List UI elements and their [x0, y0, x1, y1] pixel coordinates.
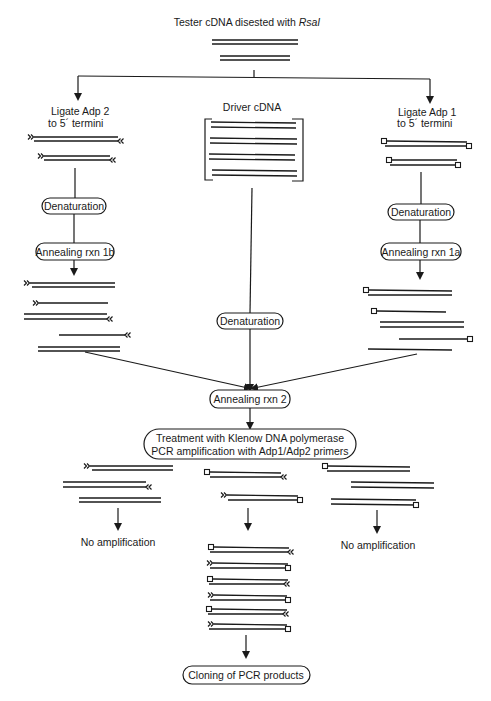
treatment-step: Treatment with Klenow DNA polymerase PCR…	[144, 429, 356, 459]
diagram-canvas: Tester cDNA disested with RsaI Ligate Ad…	[0, 0, 491, 701]
svg-text:Denaturation: Denaturation	[220, 315, 280, 327]
tester-cdna	[212, 40, 298, 60]
title-label: Tester cDNA disested with RsaI	[174, 16, 321, 28]
left-no-amplification-label: No amplification	[81, 536, 156, 548]
right-no-amplification-label: No amplification	[341, 539, 416, 551]
driver-cdna-label: Driver cDNA	[223, 101, 281, 113]
left-termini-label: to 5´ termini	[48, 117, 103, 129]
svg-text:PCR amplification with Adp1/Ad: PCR amplification with Adp1/Adp2 primers	[151, 445, 348, 457]
svg-text:Annealing rxn 2: Annealing rxn 2	[214, 393, 287, 405]
svg-text:Annealing rxn 1b: Annealing rxn 1b	[36, 246, 115, 258]
left-adp2-ligated-strands	[28, 135, 124, 163]
svg-text:Denaturation: Denaturation	[391, 206, 451, 218]
amplified-products-stack	[207, 545, 294, 632]
left-denaturation-step: Denaturation	[42, 198, 106, 214]
left-ligate-label: Ligate Adp 2	[51, 105, 110, 117]
cloning-step: Cloning of PCR products	[183, 666, 310, 684]
merge-arrows	[85, 329, 417, 388]
svg-text:Cloning of PCR products: Cloning of PCR products	[188, 669, 304, 681]
svg-text:Annealing rxn 1a: Annealing rxn 1a	[382, 246, 461, 258]
left-annealed-products	[24, 281, 131, 352]
ssh-flow-diagram: Tester cDNA disested with RsaI Ligate Ad…	[0, 0, 491, 701]
middle-denaturation-step: Denaturation	[217, 313, 283, 329]
middle-pcr-products	[205, 470, 303, 503]
right-annealing-1a-step: Annealing rxn 1a	[381, 243, 461, 260]
annealing-rxn2-step: Annealing rxn 2	[210, 390, 290, 408]
middle-connector-1	[250, 188, 252, 313]
left-annealing-1b-step: Annealing rxn 1b	[36, 243, 115, 260]
right-annealed-products	[364, 288, 473, 351]
right-pcr-products	[323, 464, 435, 508]
left-pcr-products	[63, 464, 173, 503]
driver-cdna-bracket	[205, 119, 303, 181]
right-adp1-ligated-strands	[382, 139, 472, 168]
svg-text:Treatment with Klenow DNA poly: Treatment with Klenow DNA polymerase	[156, 432, 344, 444]
right-denaturation-step: Denaturation	[388, 204, 454, 220]
split-connector	[78, 70, 430, 100]
right-termini-label: to 5´ termini	[397, 117, 452, 129]
svg-text:Denaturation: Denaturation	[44, 200, 104, 212]
